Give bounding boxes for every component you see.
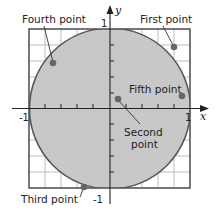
second-point-label-line1: Second	[124, 126, 163, 138]
first-point-marker	[171, 44, 178, 51]
x-axis-label: x	[200, 110, 207, 123]
first-point-label: First point	[140, 13, 192, 25]
fifth-point-label: Fifth point	[129, 83, 182, 95]
y-tick-min: -1	[93, 194, 103, 205]
third-point-label: Third point	[20, 193, 78, 205]
y-axis-label: y	[114, 4, 122, 17]
second-point-label-line2: point	[131, 138, 158, 150]
unit-circle-diagram: x y -1 1 1 -1 Fourth point First point F…	[0, 0, 216, 216]
x-tick-max: 1	[185, 112, 191, 123]
x-tick-min: -1	[19, 112, 29, 123]
y-axis-arrow-icon	[107, 5, 114, 14]
second-point-marker	[115, 96, 122, 103]
third-point-marker	[81, 184, 88, 191]
fourth-point-marker	[50, 60, 57, 67]
y-tick-max: 1	[101, 18, 107, 29]
fourth-point-label: Fourth point	[22, 13, 86, 25]
